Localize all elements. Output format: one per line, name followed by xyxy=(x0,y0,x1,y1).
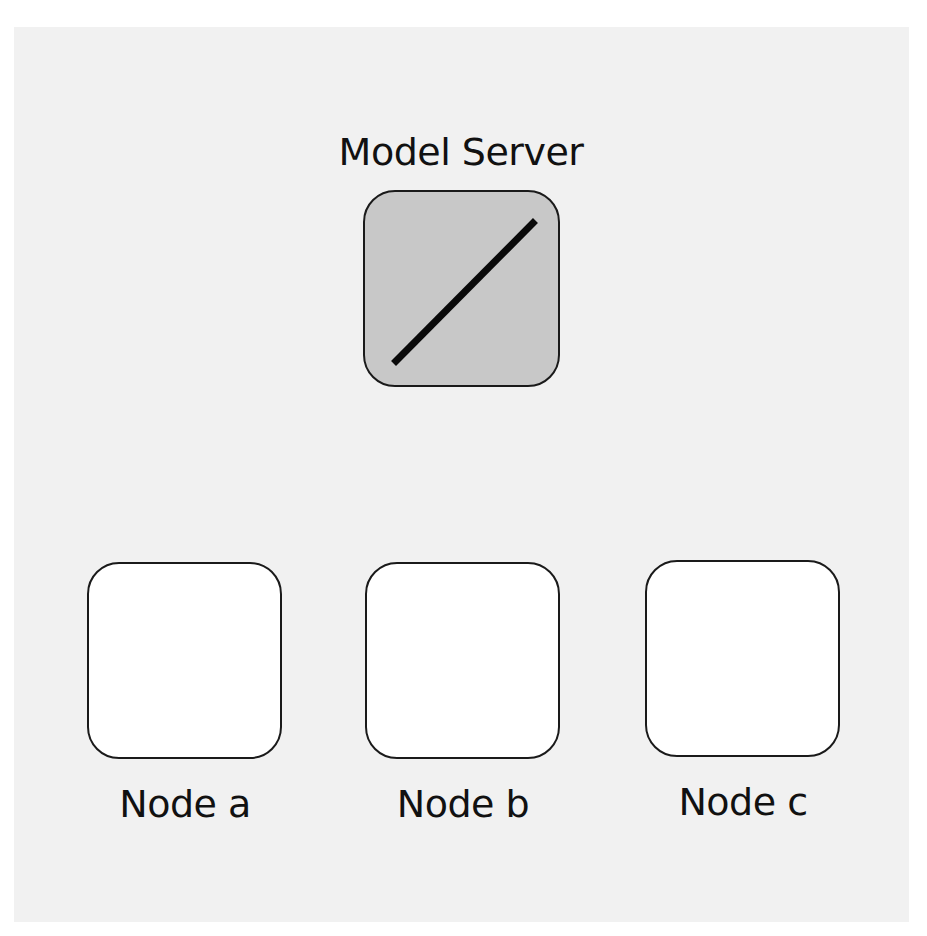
node-c-label: Node c xyxy=(643,780,843,824)
node-b-box xyxy=(365,562,560,759)
node-a-label: Node a xyxy=(85,782,285,826)
node-c-box xyxy=(645,560,840,757)
node-b-label: Node b xyxy=(363,782,563,826)
node-a-box xyxy=(87,562,282,759)
model-server-label: Model Server xyxy=(311,130,611,174)
diagonal-line-icon xyxy=(365,192,562,389)
model-server-box xyxy=(363,190,560,387)
